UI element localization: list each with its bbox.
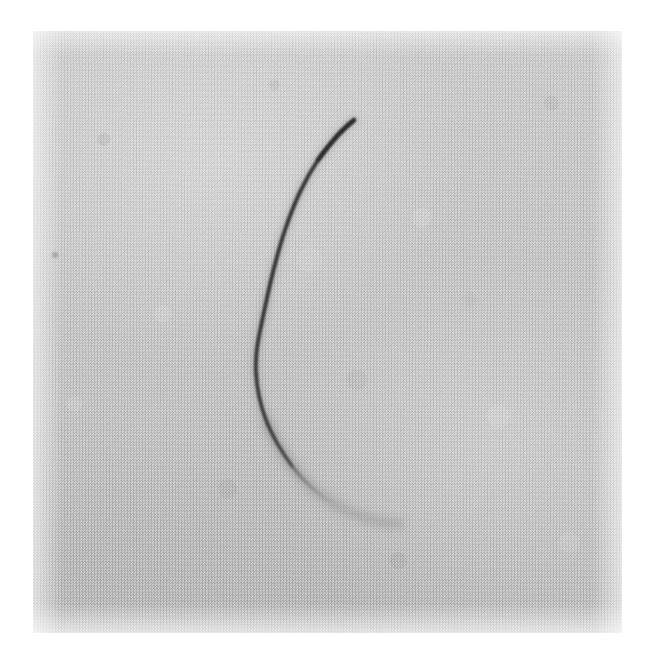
filament-stroke xyxy=(256,120,401,524)
filament-tail-wisp xyxy=(266,420,401,524)
filament-drawing xyxy=(33,31,622,633)
faint-smudge-artifact xyxy=(464,294,476,306)
caption-margin xyxy=(0,633,649,663)
filament-tail-blur xyxy=(266,420,401,524)
filament-halo xyxy=(256,120,401,524)
dark-speck-artifact xyxy=(52,252,58,258)
scanned-page xyxy=(0,0,649,663)
photograph-plate xyxy=(33,31,622,633)
filament-tip xyxy=(318,120,354,160)
